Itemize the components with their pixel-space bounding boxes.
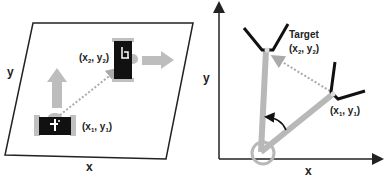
robot-end-icon bbox=[112, 38, 138, 82]
target-title: Target bbox=[289, 29, 319, 40]
gripper-target-icon bbox=[244, 24, 288, 53]
workspace-plane bbox=[5, 23, 193, 159]
target-label: (x2, y2) bbox=[289, 43, 319, 55]
up-motion-arrow-icon bbox=[47, 68, 67, 108]
diagram-canvas: y x (x1, y1) (x2, y bbox=[0, 0, 386, 178]
robot-start-icon bbox=[34, 113, 76, 136]
left-y-axis-label: y bbox=[7, 65, 14, 79]
left-start-label: (x1, y1) bbox=[82, 121, 112, 133]
right-start-label: (x1, y1) bbox=[330, 105, 360, 117]
dotted-path bbox=[60, 70, 117, 115]
right-x-axis-label: x bbox=[305, 164, 312, 178]
arm-link-target bbox=[261, 50, 266, 152]
gripper-start-icon bbox=[331, 62, 366, 99]
rotation-arrow-icon bbox=[267, 117, 286, 130]
arm-link-start bbox=[261, 94, 333, 152]
dotted-path-right bbox=[274, 57, 330, 91]
left-panel: y x (x1, y1) (x2, y bbox=[5, 23, 193, 174]
right-panel: y x Target (x2, y2) (x1, y1) bbox=[203, 4, 381, 178]
right-motion-arrow-icon bbox=[142, 51, 174, 69]
left-end-label: (x2, y2) bbox=[79, 52, 109, 64]
left-x-axis-label: x bbox=[86, 160, 93, 174]
right-y-axis-label: y bbox=[203, 71, 210, 85]
